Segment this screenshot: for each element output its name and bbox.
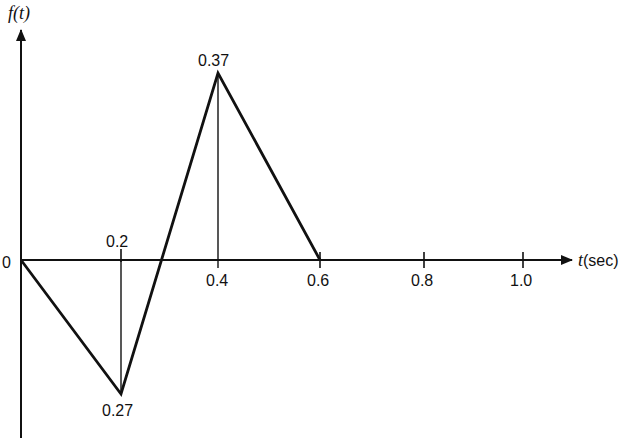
x-ticks <box>121 249 523 268</box>
tick-label-0.2: 0.2 <box>106 233 128 250</box>
tick-label-0.8: 0.8 <box>411 272 433 289</box>
peak-label: 0.37 <box>198 52 229 69</box>
trough-label: 0.27 <box>102 402 133 419</box>
chart-canvas: f(t) 0 0.37 0.27 0.2 0.4 0.6 0.8 1.0 t(s… <box>0 0 621 440</box>
origin-label: 0 <box>2 254 11 271</box>
y-axis-label: f(t) <box>8 3 30 24</box>
tick-label-0.6: 0.6 <box>307 272 329 289</box>
tick-label-1.0: 1.0 <box>510 272 532 289</box>
tick-label-0.4: 0.4 <box>206 272 228 289</box>
x-axis-label: t(sec) <box>578 250 619 270</box>
signal-curve <box>21 73 320 394</box>
